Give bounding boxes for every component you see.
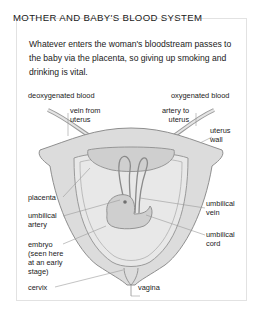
label-umbilical-cord: umbilical cord xyxy=(206,230,235,248)
label-artery-to-uterus: artery to uterus xyxy=(162,106,189,124)
label-vagina: vagina xyxy=(138,283,160,292)
label-uterus-wall: uterus wall xyxy=(210,126,231,144)
label-umbilical-artery: umbilical artery xyxy=(28,211,57,229)
label-deoxygenated-blood: deoxygenated blood xyxy=(28,91,95,100)
embryo-eye xyxy=(123,200,127,204)
label-placenta: placenta xyxy=(28,193,56,202)
label-oxygenated-blood: oxygenated blood xyxy=(171,91,229,100)
label-vein-from-uterus: vein from uterus xyxy=(70,106,100,124)
label-embryo: embryo (seen here at an early stage) xyxy=(28,240,63,276)
label-umbilical-vein: umbilical vein xyxy=(206,199,235,217)
label-cervix: cervix xyxy=(28,283,47,292)
